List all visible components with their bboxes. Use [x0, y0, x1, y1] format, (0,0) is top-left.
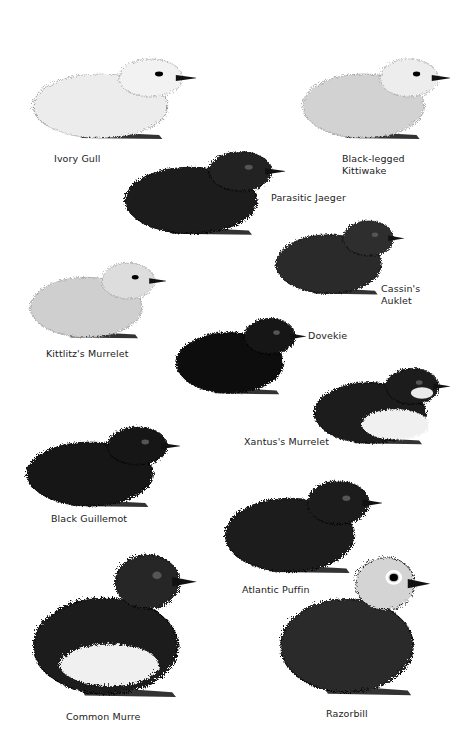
bird-illustration-icon	[272, 548, 446, 703]
label-common-murre: Common Murre	[66, 711, 141, 723]
bird-illustration-icon	[310, 355, 450, 450]
bird-parasitic-jaeger	[120, 137, 285, 241]
bird-xantus-s-murrelet	[310, 355, 450, 450]
bird-illustration-icon	[24, 545, 214, 705]
label-black-legged-kittiwake: Black-legged Kittiwake	[342, 153, 405, 177]
bird-kittlitz-s-murrelet	[26, 250, 166, 344]
label-black-guillemot: Black Guillemot	[51, 513, 127, 525]
bird-illustration-icon	[172, 305, 306, 400]
bird-black-guillemot	[22, 413, 180, 513]
label-kittlitz-s-murrelet: Kittlitz's Murrelet	[46, 348, 129, 360]
label-razorbill: Razorbill	[326, 708, 368, 720]
label-xantus-s-murrelet: Xantus's Murrelet	[244, 436, 329, 448]
bird-illustration-icon	[22, 413, 180, 513]
bird-illustration-icon	[28, 45, 196, 145]
seabird-chick-plate: Ivory GullBlack-legged KittiwakeParasiti…	[0, 0, 472, 756]
label-ivory-gull: Ivory Gull	[54, 153, 100, 165]
bird-ivory-gull	[28, 45, 196, 145]
label-cassin-s-auklet: Cassin's Auklet	[381, 283, 420, 307]
bird-common-murre	[24, 545, 214, 705]
bird-illustration-icon	[298, 45, 450, 145]
label-dovekie: Dovekie	[308, 330, 347, 342]
bird-razorbill	[272, 548, 446, 703]
bird-illustration-icon	[26, 250, 166, 344]
bird-black-legged-kittiwake	[298, 45, 450, 145]
bird-dovekie	[172, 305, 306, 400]
label-parasitic-jaeger: Parasitic Jaeger	[271, 192, 346, 204]
bird-illustration-icon	[120, 137, 285, 241]
